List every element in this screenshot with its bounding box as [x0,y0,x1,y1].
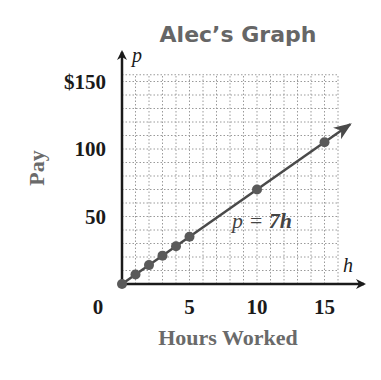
equation-lhs: p [230,208,243,233]
data-point [320,137,330,147]
x-tick-label: 10 [247,295,268,319]
x-axis-variable: h [343,254,353,276]
y-axis-variable: p [130,44,142,67]
data-point [117,279,127,289]
data-point [252,185,262,195]
x-tick-label: 15 [314,295,335,319]
series-line [122,124,350,284]
x-tick-label: 0 [93,295,104,319]
data-point [171,241,181,251]
data-point [185,232,195,242]
x-tick-labels: 051015 [93,295,335,319]
y-tick-label: 100 [75,137,107,161]
y-axis-title: Pay [24,150,49,185]
y-tick-label: $150 [64,70,106,94]
x-axis-title: Hours Worked [158,325,298,350]
data-point [131,270,141,280]
chart: Alec’s Graph p h 50100$150 051015 Pay Ho… [0,0,381,380]
y-tick-labels: 50100$150 [64,70,106,229]
chart-title: Alec’s Graph [160,22,317,47]
y-tick-label: 50 [85,205,106,229]
equation-var: h [280,208,292,233]
grid [122,75,338,284]
equation-eq: = [243,208,269,233]
equation-label: p = 7h [230,208,292,233]
data-point [144,260,154,270]
data-series [117,124,350,289]
data-point [158,251,168,261]
x-tick-label: 5 [184,295,195,319]
